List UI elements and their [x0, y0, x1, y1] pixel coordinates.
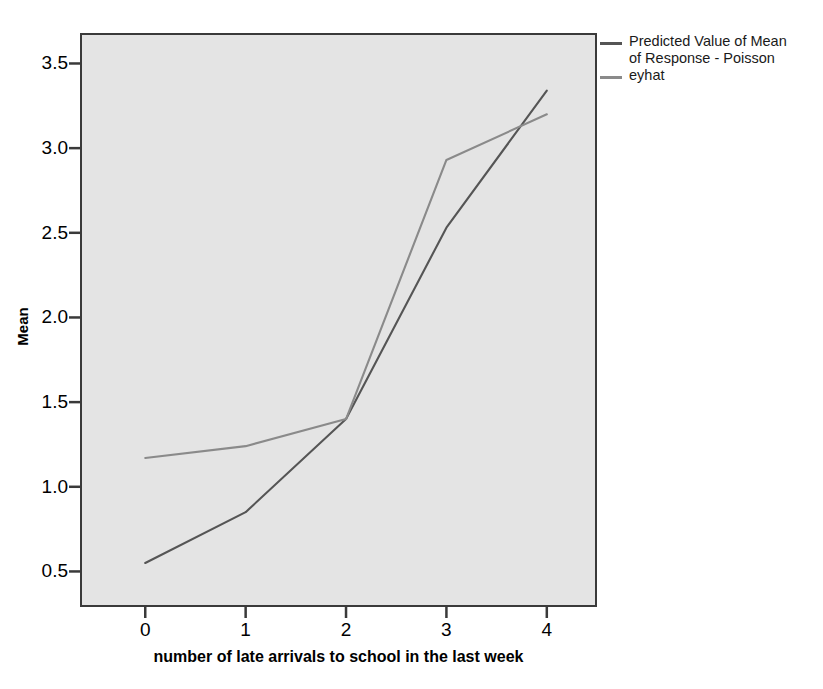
x-tick-label: 0	[125, 620, 165, 640]
x-tick-label: 1	[226, 620, 266, 640]
y-tick-label: 1.5	[42, 392, 68, 411]
y-tick-label: 3.0	[42, 138, 68, 157]
legend-line-swatch-icon	[600, 42, 622, 45]
y-tick-label: 2.0	[42, 307, 68, 326]
x-tick-label: 3	[426, 620, 466, 640]
plot-area	[80, 33, 597, 607]
y-tick-label: 1.0	[42, 477, 68, 496]
legend-line-swatch-icon	[600, 76, 622, 79]
legend-label: Predicted Value of Mean of Response - Po…	[629, 33, 787, 66]
x-tick-label: 4	[527, 620, 567, 640]
x-axis-title: number of late arrivals to school in the…	[80, 648, 597, 666]
legend-entry[interactable]: eyhat	[600, 67, 822, 84]
y-tick-label: 0.5	[42, 561, 68, 580]
y-axis-title: Mean	[14, 287, 31, 367]
chart-page: 0.51.01.52.02.53.03.5 01234 Mean number …	[0, 0, 823, 689]
legend-entry[interactable]: Predicted Value of Mean of Response - Po…	[600, 33, 822, 66]
x-tick-label: 2	[326, 620, 366, 640]
y-tick-label: 2.5	[42, 223, 68, 242]
chart-legend: Predicted Value of Mean of Response - Po…	[600, 33, 822, 85]
legend-label: eyhat	[629, 67, 664, 84]
y-tick-label: 3.5	[42, 53, 68, 72]
